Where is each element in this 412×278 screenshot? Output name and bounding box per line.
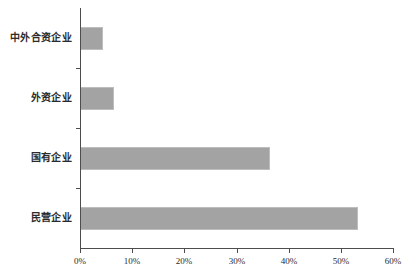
bar-waizi[interactable] — [80, 87, 114, 110]
y-axis-tick — [76, 128, 80, 129]
x-axis-label-0: 0% — [60, 256, 100, 267]
x-axis-label-50: 50% — [321, 256, 361, 267]
y-axis-tick — [76, 188, 80, 189]
plot-area — [80, 8, 393, 248]
x-axis-label-10: 10% — [112, 256, 152, 267]
x-axis-label-20: 20% — [164, 256, 204, 267]
x-axis-tick-60 — [393, 249, 394, 253]
category-label-waizi: 外资企业 — [0, 92, 72, 104]
x-axis-tick-30 — [237, 249, 238, 253]
category-label-zhongwaihezi: 中外合资企业 — [0, 32, 72, 44]
x-axis-tick-40 — [289, 249, 290, 253]
y-axis-line — [80, 8, 81, 249]
x-axis-label-30: 30% — [217, 256, 257, 267]
category-label-minying: 民营企业 — [0, 212, 72, 224]
x-axis-label-60: 60% — [373, 256, 412, 267]
y-axis-tick — [76, 68, 80, 69]
x-axis-tick-50 — [341, 249, 342, 253]
category-label-guoyou: 国有企业 — [0, 152, 72, 164]
bar-guoyou[interactable] — [80, 147, 270, 170]
bar-minying[interactable] — [80, 207, 358, 230]
x-axis-tick-10 — [132, 249, 133, 253]
bar-zhongwaihezi[interactable] — [80, 27, 103, 50]
x-axis-label-40: 40% — [269, 256, 309, 267]
x-axis-tick-0 — [80, 249, 81, 253]
x-axis-tick-20 — [184, 249, 185, 253]
bar-chart: 中外合资企业 外资企业 国有企业 民营企业 0% 10% 20% 30% 40%… — [0, 0, 412, 278]
